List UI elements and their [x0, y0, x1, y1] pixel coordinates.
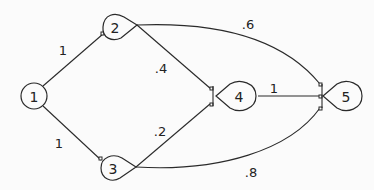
edge-3-4	[136, 104, 210, 167]
node-2[interactable]: 2	[103, 14, 137, 39]
edge-label-3-5: .8	[245, 165, 257, 180]
svg-text:4: 4	[235, 89, 244, 105]
node-5[interactable]: 5	[323, 81, 362, 110]
edge-1-2	[43, 34, 103, 86]
diagram-svg: 1 2 3 4 5 1 1 .4 .6 .2 .8 1	[0, 0, 374, 190]
svg-text:3: 3	[109, 161, 118, 177]
node-1[interactable]: 1	[21, 83, 47, 109]
svg-text:1: 1	[30, 89, 39, 105]
edge-label-2-5: .6	[242, 17, 254, 32]
node-4[interactable]: 4	[216, 81, 256, 110]
edge-2-4	[137, 25, 211, 89]
edge-label-3-4: .2	[154, 124, 166, 139]
edge-label-4-5: 1	[270, 81, 278, 96]
edge-label-1-3: 1	[55, 136, 63, 151]
svg-text:5: 5	[342, 89, 351, 105]
edge-label-2-4: .4	[155, 61, 167, 76]
arrow-tip-icon	[99, 157, 102, 160]
edge-1-3	[43, 106, 101, 160]
svg-text:2: 2	[111, 20, 120, 36]
edge-label-1-2: 1	[59, 43, 67, 58]
node-3[interactable]: 3	[101, 156, 136, 180]
network-diagram: 1 2 3 4 5 1 1 .4 .6 .2 .8 1	[0, 0, 374, 190]
